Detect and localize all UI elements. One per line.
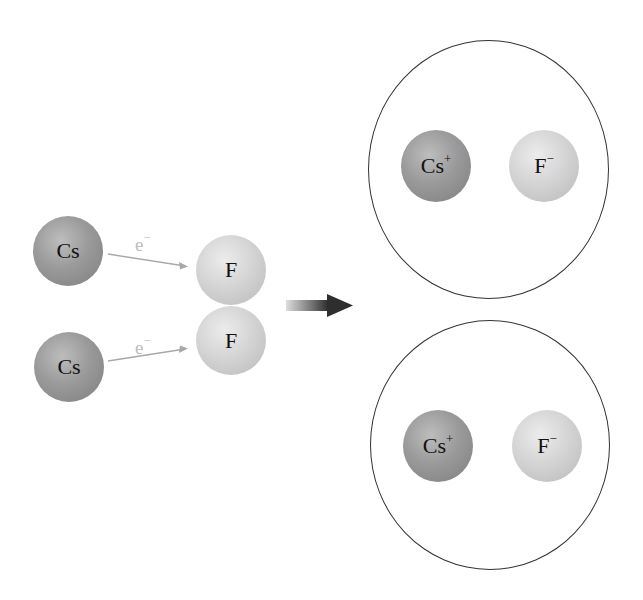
cesium-atom-top: Cs: [33, 216, 103, 286]
atom-label: F: [225, 257, 237, 283]
reaction-arrow-icon: [286, 294, 353, 317]
ion-label: F−: [534, 153, 554, 179]
fluoride-anion-top: F−: [509, 130, 579, 202]
atom-label: F: [225, 328, 237, 354]
atom-label: Cs: [56, 238, 79, 264]
fluoride-anion-bottom: F−: [512, 410, 582, 482]
cesium-cation-bottom: Cs+: [403, 410, 473, 482]
electron-label-top: e−: [135, 232, 151, 256]
ion-label: Cs+: [421, 153, 452, 179]
fluorine-atom-top: F: [196, 235, 266, 305]
ion-label: Cs+: [423, 433, 454, 459]
fluorine-atom-bottom: F: [196, 306, 266, 375]
cesium-cation-top: Cs+: [401, 130, 471, 202]
atom-label: Cs: [57, 354, 80, 380]
cesium-atom-bottom: Cs: [34, 332, 104, 402]
electron-label-bottom: e−: [135, 335, 151, 359]
ion-label: F−: [537, 433, 557, 459]
